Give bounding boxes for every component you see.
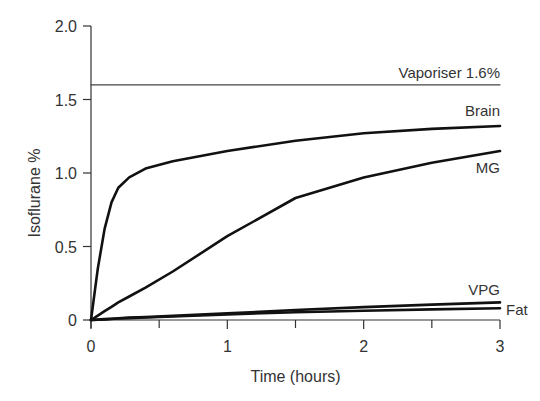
series-label-fat: Fat — [506, 301, 529, 318]
x-tick-label: 2 — [359, 338, 368, 355]
y-axis-label: Isoflurane % — [26, 149, 43, 238]
series-label-vaporiser-1-6-: Vaporiser 1.6% — [399, 64, 500, 81]
y-tick-label: 1.0 — [55, 165, 77, 182]
x-tick-label: 1 — [223, 338, 232, 355]
y-tick-label: 1.5 — [55, 92, 77, 109]
y-tick-label: 2.0 — [55, 18, 77, 35]
series-line-brain — [91, 126, 500, 320]
series-line-mg — [91, 151, 500, 320]
y-tick-label: 0 — [68, 312, 77, 329]
series-label-mg: MG — [476, 159, 500, 176]
y-tick-label: 0.5 — [55, 239, 77, 256]
series-label-brain: Brain — [465, 102, 500, 119]
line-chart: 00.51.01.52.00123Time (hours)Isoflurane … — [0, 0, 540, 401]
x-tick-label: 3 — [496, 338, 505, 355]
x-axis-label: Time (hours) — [250, 368, 340, 385]
series-label-vpg: VPG — [468, 281, 500, 298]
x-tick-label: 0 — [87, 338, 96, 355]
